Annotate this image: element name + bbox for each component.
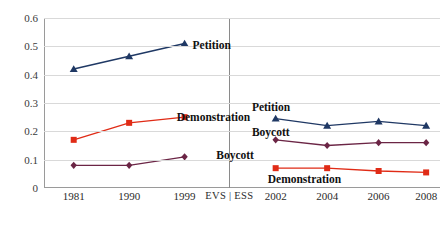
gridline <box>44 131 440 132</box>
y-axis: 00.10.20.30.40.50.6 <box>0 0 38 227</box>
series-inline-label: Petition <box>193 39 231 51</box>
y-axis-tick-label: 0.5 <box>24 40 38 52</box>
x-axis-tick-label: 2004 <box>316 190 338 202</box>
plot-area <box>44 18 440 188</box>
x-axis-tick-label: 1999 <box>174 190 196 202</box>
x-axis-tick-label: 2002 <box>265 190 287 202</box>
data-point-marker <box>71 137 77 143</box>
x-axis-labels: 198119901999EVS | ESS2002200420062008 <box>44 190 440 212</box>
series-inline-label: Demonstration <box>177 111 250 123</box>
x-axis-tick-label: 2008 <box>415 190 437 202</box>
y-axis-tick-label: 0 <box>33 182 39 194</box>
x-axis-tick-label: 1981 <box>63 190 85 202</box>
y-axis-tick-label: 0.6 <box>24 12 38 24</box>
series-inline-label: Petition <box>252 101 290 113</box>
data-point-marker <box>324 142 330 149</box>
data-point-marker <box>71 162 77 169</box>
series-line-boycott-ess <box>276 140 426 146</box>
series-inline-label: Demonstration <box>268 173 341 185</box>
gridline <box>44 75 440 76</box>
series-inline-label: Boycott <box>216 149 254 161</box>
data-point-marker <box>324 165 330 171</box>
data-point-marker <box>375 139 381 146</box>
data-point-marker <box>126 162 132 169</box>
x-axis-tick-label: 2006 <box>368 190 390 202</box>
data-point-marker <box>423 139 429 146</box>
y-axis-tick-label: 0.1 <box>24 154 38 166</box>
data-point-marker <box>272 115 280 122</box>
x-axis-tick-label: 1990 <box>118 190 140 202</box>
series-line-petition-ess <box>276 119 426 126</box>
data-point-marker <box>423 169 429 175</box>
gridline <box>44 103 440 104</box>
series-line-demonstration-ess <box>276 168 426 172</box>
y-axis-tick-label: 0.4 <box>24 69 38 81</box>
data-point-marker <box>273 165 279 171</box>
data-point-marker <box>126 120 132 126</box>
data-point-marker <box>376 168 382 174</box>
series-inline-label: Boycott <box>252 126 290 138</box>
y-axis-tick-label: 0.2 <box>24 125 38 137</box>
gridline <box>44 18 440 19</box>
y-axis-tick-label: 0.3 <box>24 97 38 109</box>
gridline <box>44 46 440 47</box>
chart-container: 00.10.20.30.40.50.6 198119901999EVS | ES… <box>0 0 446 227</box>
x-axis-panel-separator-label: EVS | ESS <box>205 190 253 201</box>
